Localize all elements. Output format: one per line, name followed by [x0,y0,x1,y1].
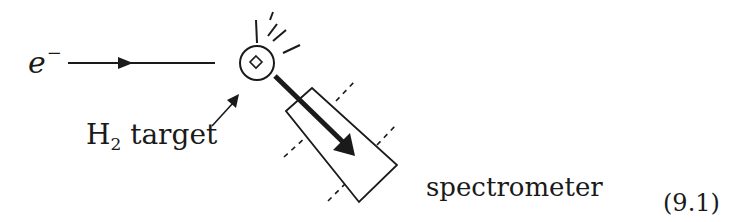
setup-diagram [0,0,746,222]
spectrometer-label: spectrometer [426,172,603,202]
h2-target-icon [240,46,274,80]
electron-label: e− [28,42,62,80]
electron-beam-arrow [68,57,215,69]
h2-target-label: H2 target [86,118,217,154]
equation-number: (9.1) [663,189,720,217]
